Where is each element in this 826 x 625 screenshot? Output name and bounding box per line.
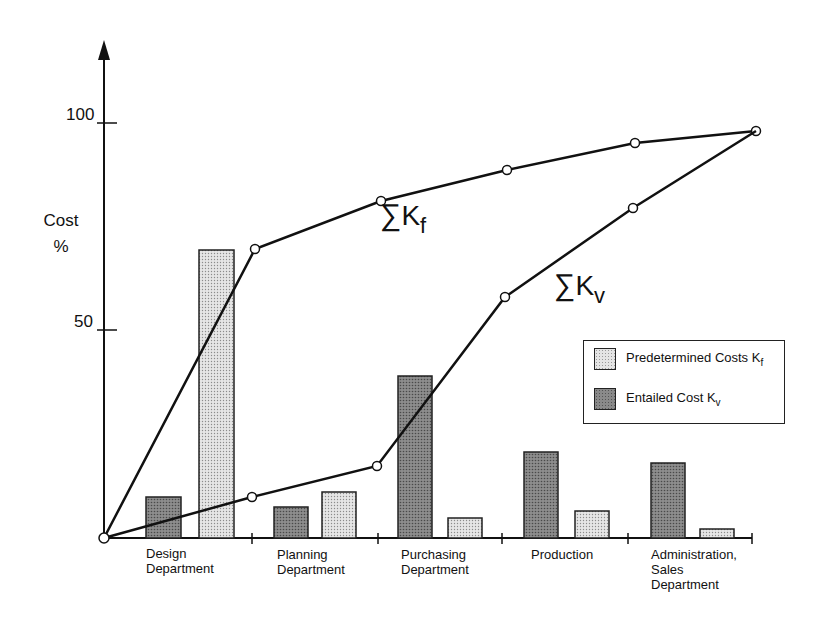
- legend-swatch-dark-pattern-icon: [594, 388, 616, 410]
- bar-kv-administration: [651, 463, 685, 538]
- sum-kf-symbol: K: [401, 200, 420, 231]
- marker-circle-icon: [373, 462, 382, 471]
- category-label-line: Sales: [651, 562, 737, 577]
- bar-kv-planning: [274, 507, 308, 538]
- y-axis-arrow-icon: [98, 40, 110, 60]
- sum-kv-annotation: ∑Kv: [554, 268, 605, 309]
- legend: Predetermined Costs Kf Entailed Cost Kv: [583, 340, 785, 424]
- legend-label-kv: Entailed Cost Kv: [626, 390, 721, 408]
- sum-kf-annotation: ∑Kf: [380, 198, 426, 239]
- marker-circle-icon: [501, 293, 510, 302]
- category-label-planning: Planning Department: [277, 547, 345, 577]
- bar-kf-administration: [700, 529, 734, 538]
- marker-circle-icon: [251, 245, 260, 254]
- legend-item-kv: Entailed Cost Kv: [594, 388, 721, 410]
- category-label-line: Department: [277, 562, 345, 577]
- category-label-purchasing: Purchasing Department: [401, 547, 469, 577]
- y-tick-50-label: 50: [74, 312, 93, 332]
- sigma-icon: ∑: [554, 268, 575, 301]
- bar-kf-planning: [322, 492, 356, 538]
- category-label-line: Design: [146, 546, 214, 561]
- chart-canvas: [0, 0, 826, 625]
- category-label-line: Planning: [277, 547, 345, 562]
- category-label-line: Administration,: [651, 547, 737, 562]
- marker-circle-icon: [629, 204, 638, 213]
- category-label-line: Department: [651, 577, 737, 592]
- legend-label-kf: Predetermined Costs Kf: [626, 350, 763, 368]
- origin-marker-icon: [99, 533, 109, 543]
- y-tick-100-label: 100: [66, 105, 94, 125]
- marker-circle-icon: [631, 139, 640, 148]
- category-label-line: Production: [531, 547, 593, 562]
- category-label-line: Department: [401, 562, 469, 577]
- y-axis-title-line1: Cost: [38, 208, 84, 234]
- y-axis: [97, 40, 117, 537]
- bar-kf-production: [575, 511, 609, 538]
- y-axis-title: Cost %: [38, 208, 84, 260]
- marker-circle-icon: [503, 166, 512, 175]
- sum-kv-subscript: v: [594, 283, 605, 308]
- bar-kf-design: [199, 250, 234, 538]
- category-label-line: Purchasing: [401, 547, 469, 562]
- bar-kv-production: [524, 452, 558, 538]
- legend-swatch-light-pattern-icon: [594, 348, 616, 370]
- category-label-design: Design Department: [146, 546, 214, 576]
- sum-kf-subscript: f: [420, 213, 426, 238]
- category-label-production: Production: [531, 547, 593, 562]
- category-label-line: Department: [146, 561, 214, 576]
- marker-circle-icon: [248, 493, 257, 502]
- sigma-icon: ∑: [380, 198, 401, 231]
- category-label-administration: Administration, Sales Department: [651, 547, 737, 592]
- sum-kv-symbol: K: [575, 270, 594, 301]
- bar-kf-purchasing: [448, 518, 482, 538]
- y-axis-title-line2: %: [38, 234, 84, 260]
- legend-item-kf: Predetermined Costs Kf: [594, 348, 763, 370]
